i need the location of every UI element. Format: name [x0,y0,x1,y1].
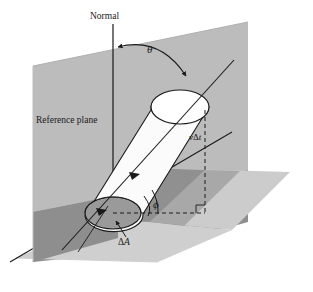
theta-angle-label: θ [147,44,152,55]
delta-a-label: ΔA [118,238,130,248]
normal-label: Normal [90,12,119,22]
reference-plane-label: Reference plane [36,116,97,126]
phi-angle-label: ϕ [153,199,159,210]
v-delta-t-label: vΔt [189,133,201,142]
v-delta-t-time: t [199,132,202,142]
delta-a-area: A [124,237,130,247]
diagram-canvas [0,0,313,292]
physics-flux-diagram: Normal Reference plane θ ϕ vΔt ΔA [0,0,313,292]
